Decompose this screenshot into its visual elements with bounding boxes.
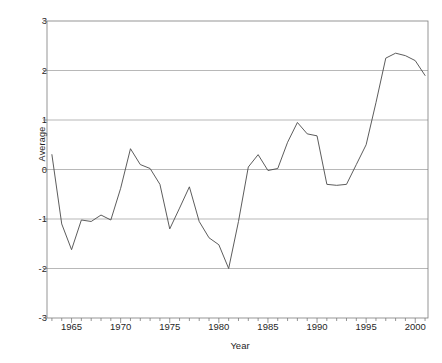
data-line-average: [52, 53, 425, 268]
plot-area: [0, 0, 442, 363]
chart-container: Average Year -3-2-10123 1965197019751980…: [0, 0, 442, 363]
